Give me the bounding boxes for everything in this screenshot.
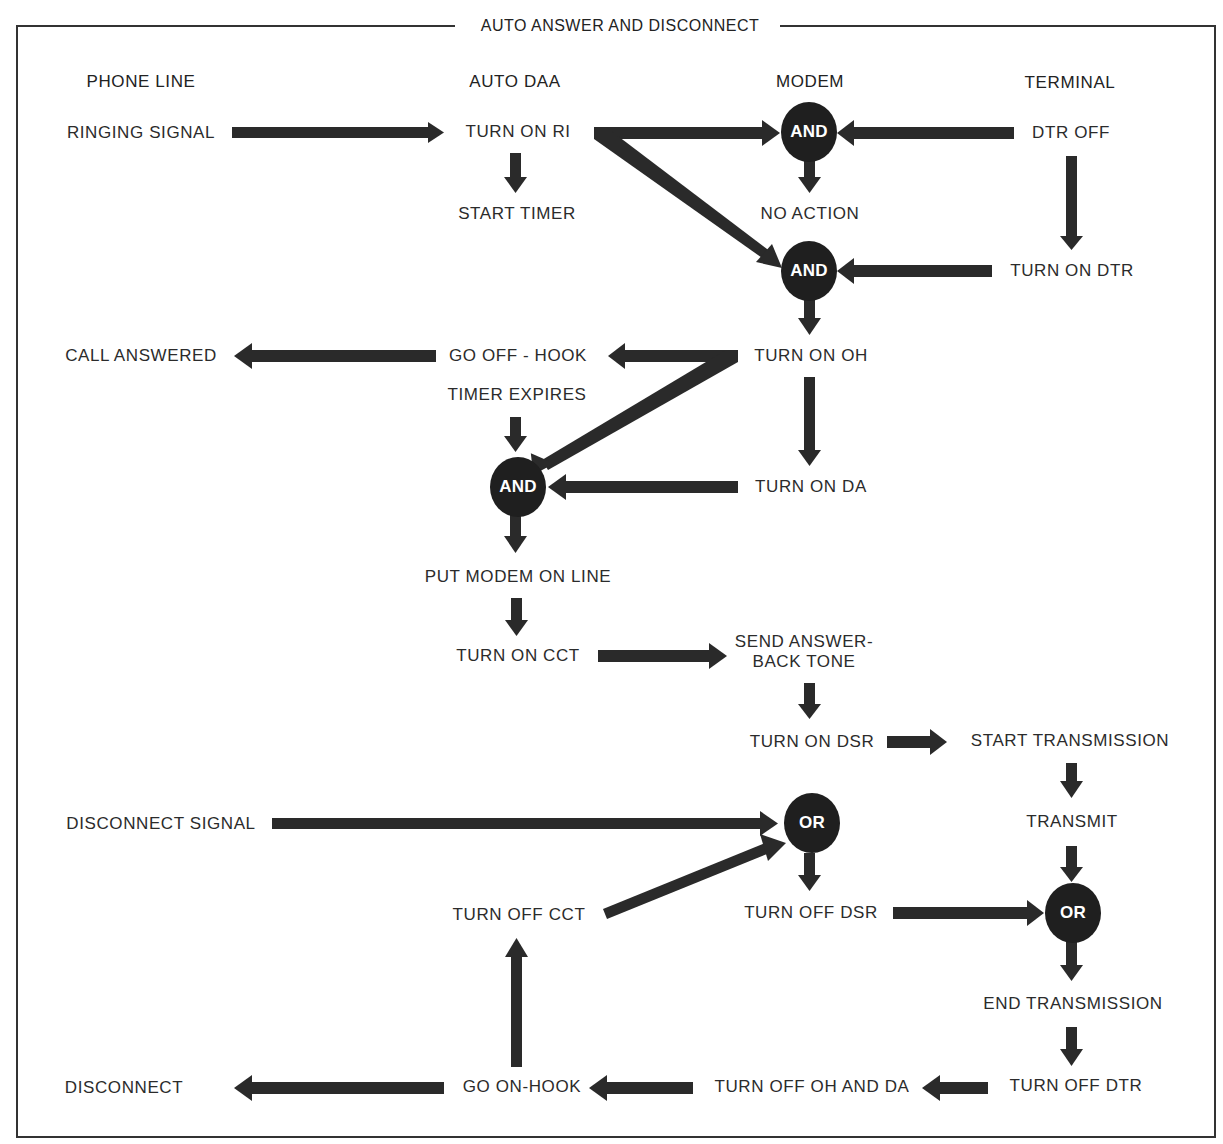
arrow-and-daa-to-putmodem [504, 513, 527, 553]
arrow-goonhook-to-turnoffcct [505, 938, 528, 1067]
arrow-turnoffdtr-to-turnoffohda [922, 1075, 988, 1101]
arrow-timerexpires-to-and-daa [504, 417, 527, 452]
arrow-putmodem-to-turnoncct [505, 598, 528, 636]
arrow-ri-to-and-middle [594, 127, 782, 268]
node-disconnect: DISCONNECT [65, 1078, 183, 1098]
arrow-or-terminal-to-endtx [1060, 942, 1083, 981]
node-turn-on-dtr: TURN ON DTR [1010, 261, 1134, 281]
gate-label: AND [499, 477, 537, 497]
node-end-transmission: END TRANSMISSION [983, 994, 1162, 1014]
node-turn-on-da: TURN ON DA [755, 477, 867, 497]
arrow-endtx-to-turnoffdtr [1060, 1027, 1083, 1066]
node-timer-expires: TIMER EXPIRES [447, 385, 586, 405]
gate-or-terminal: OR [1045, 883, 1101, 943]
node-send-answer-back-tone: SEND ANSWER- BACK TONE [735, 632, 874, 672]
arrow-ringing-to-ri [232, 122, 444, 143]
node-start-transmission: START TRANSMISSION [971, 731, 1169, 751]
arrow-ri-to-start-timer [504, 153, 527, 193]
node-turn-off-dtr: TURN OFF DTR [1010, 1076, 1143, 1096]
arrow-dtroff-to-and-top [837, 120, 1014, 146]
arrow-turnonoh-to-and-daa [524, 350, 738, 475]
node-call-answered: CALL ANSWERED [65, 346, 217, 366]
node-transmit: TRANSMIT [1026, 812, 1118, 832]
node-turn-off-dsr: TURN OFF DSR [744, 903, 878, 923]
gate-or-modem: OR [784, 793, 840, 853]
arrow-turnonoh-to-turnonda [798, 377, 821, 466]
frame [17, 26, 1215, 1137]
flow-diagram: AUTO ANSWER AND DISCONNECT PHONE LINE AU… [0, 0, 1223, 1144]
diagram-title: AUTO ANSWER AND DISCONNECT [477, 17, 764, 35]
gate-and-modem-middle: AND [781, 241, 837, 301]
arrow-or-modem-to-turnoffdsr [798, 853, 821, 891]
node-turn-off-cct: TURN OFF CCT [453, 905, 586, 925]
arrow-sendtone-to-turnondsr [798, 683, 821, 719]
arrow-turnoffdsr-to-or-terminal [893, 900, 1044, 926]
arrow-turnondtr-to-and-middle [837, 258, 992, 284]
arrow-turnoncct-to-sendtone [598, 643, 727, 669]
arrow-disconnectsignal-to-or-modem [272, 811, 778, 836]
diagram-canvas [0, 0, 1223, 1144]
column-header-phone-line: PHONE LINE [87, 72, 196, 92]
arrow-turnonda-to-and-daa [548, 474, 738, 500]
gate-label: AND [790, 261, 828, 281]
column-header-modem: MODEM [776, 72, 844, 92]
node-put-modem-on-line: PUT MODEM ON LINE [425, 567, 612, 587]
node-turn-off-oh-and-da: TURN OFF OH AND DA [715, 1077, 910, 1097]
node-turn-on-cct: TURN ON CCT [456, 646, 580, 666]
gate-and-auto-daa: AND [490, 457, 546, 517]
arrow-turnoffohda-to-goonhook [589, 1075, 693, 1101]
arrow-goonhook-to-disconnect [234, 1075, 444, 1101]
node-dtr-off: DTR OFF [1032, 123, 1110, 143]
node-go-on-hook: GO ON-HOOK [463, 1077, 581, 1097]
node-start-timer: START TIMER [458, 204, 576, 224]
arrow-starttx-to-transmit [1060, 763, 1083, 798]
gate-label: AND [790, 122, 828, 142]
arrow-turnondsr-to-starttx [887, 729, 947, 755]
arrow-dtroff-to-turnondtr [1060, 156, 1083, 250]
node-turn-on-dsr: TURN ON DSR [750, 732, 875, 752]
node-turn-on-oh: TURN ON OH [754, 346, 868, 366]
node-ringing-signal: RINGING SIGNAL [67, 123, 215, 143]
gate-label: OR [799, 813, 825, 833]
column-header-terminal: TERMINAL [1025, 73, 1116, 93]
node-turn-on-ri: TURN ON RI [465, 122, 570, 142]
arrow-transmit-to-or-terminal [1060, 846, 1083, 882]
arrows [232, 120, 1083, 1101]
arrow-gooffhook-to-callanswered [234, 343, 436, 369]
gate-label: OR [1060, 903, 1086, 923]
node-no-action: NO ACTION [761, 204, 860, 224]
gate-and-modem-top: AND [781, 102, 837, 162]
node-go-off-hook: GO OFF - HOOK [449, 346, 587, 366]
node-disconnect-signal: DISCONNECT SIGNAL [66, 814, 255, 834]
arrow-and-middle-to-turnonoh [798, 298, 821, 335]
column-header-auto-daa: AUTO DAA [469, 72, 560, 92]
arrow-and-top-to-no-action [798, 160, 821, 193]
